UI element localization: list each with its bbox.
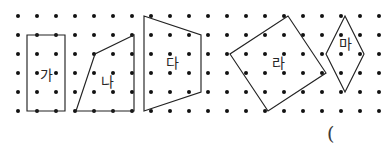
grid-dot	[320, 109, 324, 113]
grid-dot	[282, 109, 286, 113]
grid-dot	[54, 52, 58, 56]
grid-dot	[16, 14, 20, 18]
grid-dot	[92, 71, 96, 75]
shape-label-da: 다	[166, 55, 179, 71]
grid-dot	[377, 52, 381, 56]
grid-dot	[16, 90, 20, 94]
grid-dot	[149, 52, 153, 56]
grid-dot	[244, 71, 248, 75]
grid-dot	[187, 52, 191, 56]
grid-dot	[301, 71, 305, 75]
grid-dot	[377, 33, 381, 37]
grid-dot	[358, 52, 362, 56]
grid-dot	[244, 90, 248, 94]
grid-dot	[111, 52, 115, 56]
grid-dot	[244, 33, 248, 37]
grid-dot	[187, 71, 191, 75]
grid-dot	[263, 14, 267, 18]
grid-dot	[244, 109, 248, 113]
grid-dot	[339, 90, 343, 94]
open-paren-annotation: (	[327, 124, 334, 143]
grid-dot	[301, 14, 305, 18]
grid-dot	[130, 14, 134, 18]
grid-dot	[16, 71, 20, 75]
shape-label-ga: 가	[40, 67, 53, 83]
grid-dot	[263, 90, 267, 94]
grid-dot	[149, 90, 153, 94]
grid-dot	[206, 52, 210, 56]
grid-dot	[187, 14, 191, 18]
grid-dot	[111, 14, 115, 18]
polygon-na	[76, 35, 134, 111]
shape-label-ra: 라	[272, 55, 285, 71]
grid-dot	[168, 14, 172, 18]
grid-dot	[339, 109, 343, 113]
grid-dot	[54, 71, 58, 75]
grid-dot	[320, 90, 324, 94]
grid-dot	[320, 52, 324, 56]
grid-dot	[92, 14, 96, 18]
grid-dot	[54, 14, 58, 18]
grid-dot	[358, 71, 362, 75]
grid-dot	[358, 14, 362, 18]
grid-dot	[282, 33, 286, 37]
grid-dot	[358, 109, 362, 113]
grid-dot	[358, 90, 362, 94]
grid-dot	[282, 90, 286, 94]
grid-dot	[168, 109, 172, 113]
grid-dot	[358, 33, 362, 37]
grid-dot	[16, 109, 20, 113]
grid-dot	[187, 90, 191, 94]
grid-dot	[206, 90, 210, 94]
grid-dot	[225, 71, 229, 75]
grid-dot	[130, 71, 134, 75]
grid-dot	[168, 90, 172, 94]
grid-dot	[301, 90, 305, 94]
grid-dot	[206, 33, 210, 37]
grid-dot	[111, 33, 115, 37]
grid-dot	[320, 33, 324, 37]
grid-dot	[54, 90, 58, 94]
grid-dot	[301, 109, 305, 113]
grid-dot	[377, 90, 381, 94]
grid-dot	[206, 14, 210, 18]
grid-dot	[206, 109, 210, 113]
grid-dot	[16, 52, 20, 56]
grid-dot	[377, 14, 381, 18]
figure-canvas: 가나다라마 (	[0, 0, 387, 155]
grid-dot	[73, 14, 77, 18]
grid-dot	[168, 71, 172, 75]
grid-dot	[244, 14, 248, 18]
grid-dot	[320, 14, 324, 18]
shape-label-na: 나	[101, 74, 114, 90]
grid-dot	[92, 33, 96, 37]
grid-dot	[263, 52, 267, 56]
grid-dot	[149, 71, 153, 75]
grid-dot	[16, 33, 20, 37]
grid-dot	[301, 52, 305, 56]
grid-dot	[187, 109, 191, 113]
grid-dot	[225, 52, 229, 56]
grid-dot	[206, 71, 210, 75]
grid-dot	[92, 90, 96, 94]
grid-dot	[187, 33, 191, 37]
grid-dot	[225, 109, 229, 113]
grid-dot	[225, 33, 229, 37]
grid-dot	[282, 71, 286, 75]
grid-dot	[377, 71, 381, 75]
grid-dot	[263, 33, 267, 37]
grid-dot	[149, 33, 153, 37]
grid-dot	[35, 52, 39, 56]
grid-dot	[35, 71, 39, 75]
grid-dot	[73, 33, 77, 37]
dot-grid	[16, 14, 381, 113]
grid-dot	[35, 90, 39, 94]
grid-dot	[111, 90, 115, 94]
grid-dot	[130, 52, 134, 56]
grid-dot	[377, 109, 381, 113]
grid-dot	[244, 52, 248, 56]
grid-dot	[225, 14, 229, 18]
grid-dot	[35, 14, 39, 18]
grid-dot	[339, 14, 343, 18]
grid-dot	[168, 33, 172, 37]
